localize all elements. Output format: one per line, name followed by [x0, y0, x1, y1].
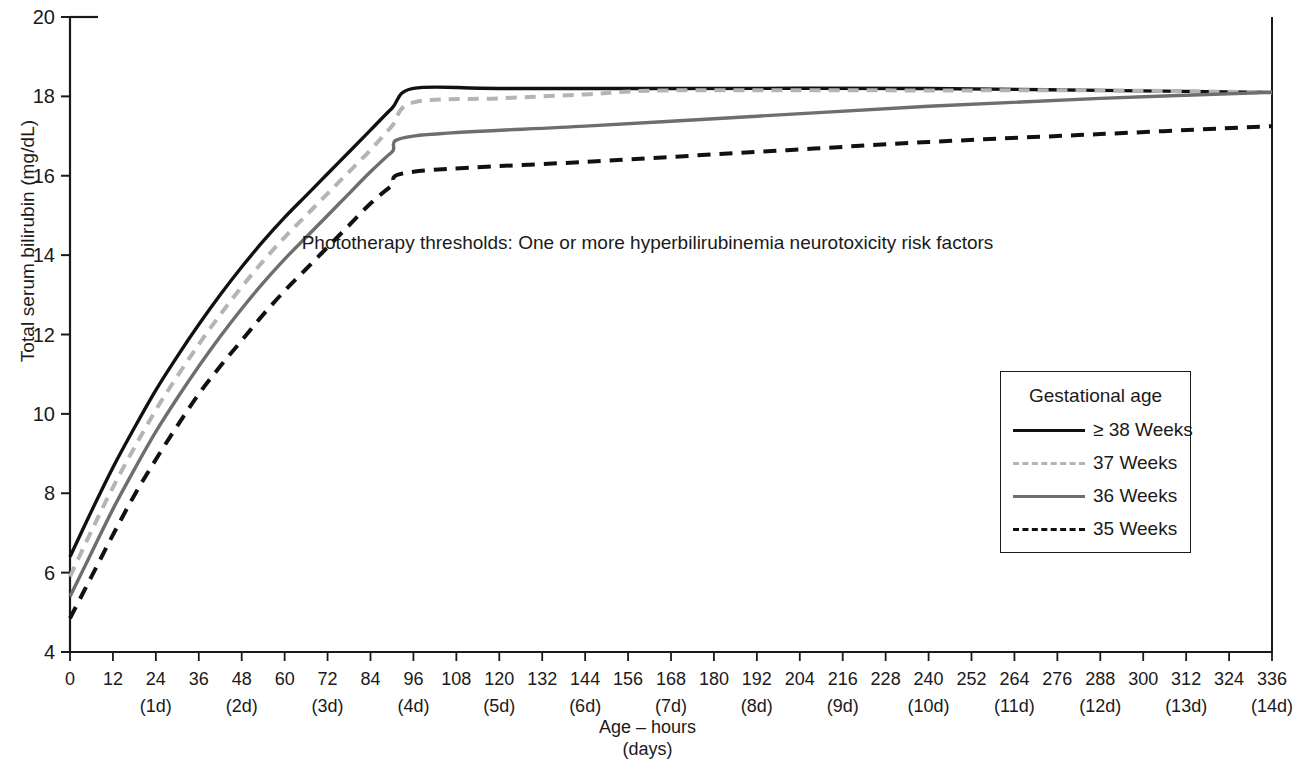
x-axis-label-line2: (days): [0, 738, 1295, 760]
x-tick-label-days: (11d): [994, 696, 1035, 716]
x-tick-label-hours: 288: [1085, 669, 1115, 689]
legend-item-37-weeks: 37 Weeks: [1001, 446, 1190, 479]
x-tick-label-hours: 276: [1042, 669, 1072, 689]
y-tick-label: 20: [33, 6, 55, 28]
x-tick-label-hours: 192: [742, 669, 772, 689]
x-tick-label-days: (10d): [908, 696, 950, 716]
legend-item-38-weeks: ≥ 38 Weeks: [1001, 413, 1190, 446]
x-tick-label-hours: 84: [360, 669, 380, 689]
x-tick-label-hours: 0: [65, 669, 75, 689]
x-tick-label-days: (5d): [483, 696, 515, 716]
legend-label-38-weeks: ≥ 38 Weeks: [1093, 419, 1193, 441]
x-tick-label-hours: 324: [1214, 669, 1244, 689]
legend-swatch-solid-gray-icon: [1013, 489, 1085, 503]
x-tick-label-hours: 228: [871, 669, 901, 689]
x-tick-label-hours: 264: [999, 669, 1029, 689]
phototherapy-threshold-chart: 4681012141618200122436486072849610812013…: [0, 0, 1295, 763]
legend-item-36-weeks: 36 Weeks: [1001, 479, 1190, 512]
x-tick-label-hours: 240: [914, 669, 944, 689]
legend-box: Gestational age ≥ 38 Weeks 37 Weeks 36 W…: [1000, 371, 1191, 553]
legend-swatch-solid-black-icon: [1013, 423, 1085, 437]
x-tick-label-days: (3d): [312, 696, 344, 716]
x-tick-label-days: (7d): [655, 696, 687, 716]
legend-label-37-weeks: 37 Weeks: [1093, 452, 1177, 474]
y-tick-label: 8: [44, 482, 55, 504]
x-tick-label-hours: 108: [441, 669, 471, 689]
legend-swatch-dashed-black-icon: [1013, 522, 1085, 536]
legend-title: Gestational age: [1001, 385, 1190, 407]
x-tick-label-hours: 204: [785, 669, 815, 689]
chart-annotation-title: Phototherapy thresholds: One or more hyp…: [0, 232, 1295, 254]
x-tick-label-hours: 48: [232, 669, 252, 689]
x-tick-label-hours: 312: [1171, 669, 1201, 689]
legend-swatch-dashed-lightgray-icon: [1013, 456, 1085, 470]
y-tick-label: 4: [44, 641, 55, 663]
x-tick-label-hours: 252: [956, 669, 986, 689]
legend-label-36-weeks: 36 Weeks: [1093, 485, 1177, 507]
x-tick-label-hours: 12: [103, 669, 123, 689]
x-tick-label-days: (13d): [1165, 696, 1207, 716]
x-tick-label-hours: 36: [189, 669, 209, 689]
x-tick-label-hours: 60: [275, 669, 295, 689]
x-tick-label-hours: 180: [699, 669, 729, 689]
x-tick-label-hours: 168: [656, 669, 686, 689]
x-tick-label-hours: 156: [613, 669, 643, 689]
x-tick-label-hours: 96: [403, 669, 423, 689]
x-tick-label-days: (6d): [569, 696, 601, 716]
x-axis-label: Age – hours (days): [0, 716, 1295, 760]
x-tick-label-days: (8d): [741, 696, 773, 716]
axes-layer: 4681012141618200122436486072849610812013…: [33, 6, 1293, 716]
x-tick-label-hours: 132: [527, 669, 557, 689]
x-tick-label-days: (1d): [140, 696, 172, 716]
y-tick-label: 6: [44, 562, 55, 584]
x-tick-label-days: (12d): [1079, 696, 1121, 716]
x-tick-label-days: (9d): [827, 696, 859, 716]
x-tick-label-hours: 216: [828, 669, 858, 689]
x-tick-label-hours: 144: [570, 669, 600, 689]
x-axis-label-line1: Age – hours: [599, 717, 696, 737]
x-tick-label-days: (14d): [1251, 696, 1293, 716]
legend-item-35-weeks: 35 Weeks: [1001, 512, 1190, 545]
x-tick-label-hours: 72: [318, 669, 338, 689]
x-tick-label-days: (2d): [226, 696, 258, 716]
x-tick-label-hours: 120: [484, 669, 514, 689]
x-tick-label-hours: 300: [1128, 669, 1158, 689]
x-tick-label-hours: 24: [146, 669, 166, 689]
y-tick-label: 10: [33, 403, 55, 425]
legend-label-35-weeks: 35 Weeks: [1093, 518, 1177, 540]
x-tick-label-days: (4d): [397, 696, 429, 716]
x-tick-label-hours: 336: [1257, 669, 1287, 689]
